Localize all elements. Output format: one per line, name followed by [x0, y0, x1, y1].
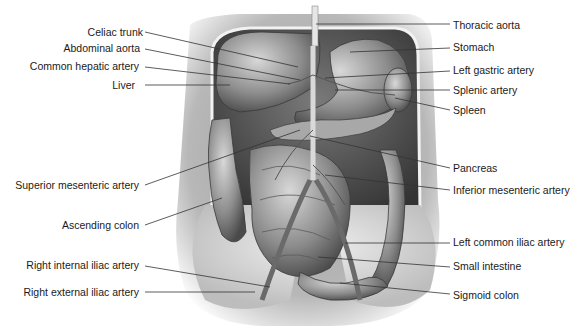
label-small-intestine: Small intestine: [453, 260, 521, 272]
thoracic-aorta: [312, 6, 318, 46]
label-ascending-colon: Ascending colon: [62, 219, 139, 231]
label-right-internal-iliac-artery: Right internal iliac artery: [26, 259, 139, 271]
label-superior-mesenteric-artery: Superior mesenteric artery: [15, 179, 139, 191]
label-celiac-trunk: Celiac trunk: [88, 26, 143, 38]
label-sigmoid-colon: Sigmoid colon: [453, 289, 519, 301]
label-pancreas: Pancreas: [453, 162, 497, 174]
label-inferior-mesenteric-artery: Inferior mesenteric artery: [453, 184, 570, 196]
label-thoracic-aorta: Thoracic aorta: [453, 19, 520, 31]
label-common-hepatic-artery: Common hepatic artery: [30, 60, 139, 72]
label-stomach: Stomach: [453, 41, 494, 53]
label-liver: Liver: [112, 79, 135, 91]
label-left-common-iliac-artery: Left common iliac artery: [453, 236, 564, 248]
anatomy-diagram: Celiac trunk Abdominal aorta Common hepa…: [0, 0, 580, 330]
label-spleen: Spleen: [453, 104, 486, 116]
label-right-external-iliac-artery: Right external iliac artery: [23, 286, 139, 298]
label-splenic-artery: Splenic artery: [453, 84, 517, 96]
label-abdominal-aorta: Abdominal aorta: [64, 42, 140, 54]
label-left-gastric-artery: Left gastric artery: [453, 64, 534, 76]
